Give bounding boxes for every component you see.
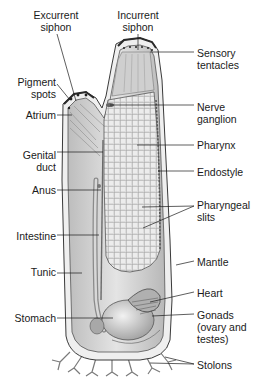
label-tunic: Tunic [22,266,56,278]
leader-stolons [150,363,194,364]
label-pigment-spots: Pigment spots [16,76,56,100]
label-stomach: Stomach [6,312,56,324]
label-atrium: Atrium [22,109,56,121]
leader-mantle [176,261,194,265]
pharynx-shape [104,92,160,272]
label-incurrent-siphon: Incurrent siphon [110,9,166,33]
label-pharyngeal-slits: Pharyngeal slits [197,199,257,223]
label-nerve-ganglion: Nerve ganglion [197,101,257,125]
label-pharynx: Pharynx [197,139,257,151]
label-gonads: Gonads (ovary and testes) [197,309,259,345]
label-heart: Heart [197,287,257,299]
label-intestine: Intestine [6,230,56,242]
leader-excurrent-siphon [57,34,76,101]
label-stolons: Stolons [197,359,257,371]
label-sensory-tentacles: Sensory tentacles [197,47,257,71]
label-anus: Anus [26,184,56,196]
label-endostyle: Endostyle [197,166,257,178]
label-mantle: Mantle [197,256,257,268]
anus-shape [97,184,101,188]
label-genital-duct: Genital duct [18,149,56,173]
label-excurrent-siphon: Excurrent siphon [30,9,82,33]
leader-stolons [165,357,194,364]
leader-pigment-spots [57,84,70,100]
